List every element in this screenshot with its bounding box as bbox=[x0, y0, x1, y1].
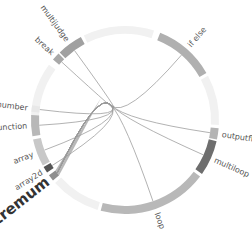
faint-arc bbox=[55, 178, 100, 210]
chord-links bbox=[39, 50, 210, 201]
group-label-multijudge: multijudge bbox=[39, 3, 71, 43]
group-label-loop: loop bbox=[153, 211, 167, 230]
group-arc-function[interactable] bbox=[31, 115, 40, 136]
group-arc-outputfloat[interactable] bbox=[209, 127, 219, 139]
group-arc-multiloop[interactable] bbox=[195, 139, 216, 174]
group-label-array: array bbox=[12, 150, 35, 166]
faint-arc bbox=[201, 76, 219, 125]
group-label-multiloop: multiloop bbox=[213, 156, 251, 179]
group-arc-array[interactable] bbox=[33, 138, 50, 166]
group-label-if-else: if else bbox=[186, 25, 208, 49]
chord-diagram: extremumarray2darrayfunctiongreatnumberb… bbox=[0, 0, 252, 240]
group-label-function: function bbox=[0, 121, 27, 132]
group-label-break: break bbox=[33, 35, 56, 57]
faint-arc bbox=[84, 26, 154, 43]
chord-link bbox=[57, 55, 181, 173]
group-label-greatnumber: greatnumber bbox=[0, 97, 29, 112]
group-arc-array2d[interactable] bbox=[44, 163, 54, 173]
group-label-outputfloat: outputfloat bbox=[221, 130, 252, 145]
group-arc-greatnumber[interactable] bbox=[31, 105, 40, 112]
chord-band bbox=[55, 98, 101, 175]
